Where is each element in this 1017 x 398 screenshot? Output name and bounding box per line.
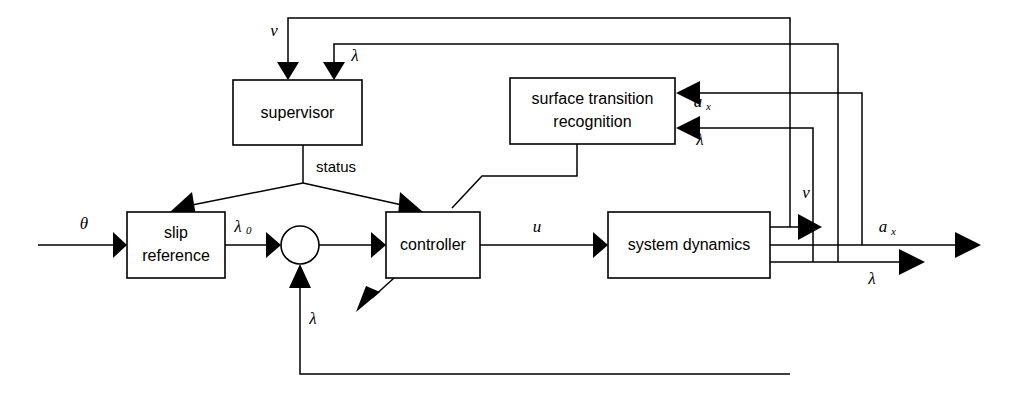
block-slip-rect[interactable] [127, 212, 225, 278]
arrowhead-slip-to-sum [266, 232, 281, 258]
label-lambda-to-surface: λ [695, 130, 703, 149]
wire-status-to-controller [303, 183, 402, 205]
label-ax-output-subscript: x [890, 225, 896, 237]
signal-label-layer: θ v λ status λ 0 u λ a x λ v a x λ [80, 21, 896, 328]
label-theta-input: θ [80, 214, 88, 233]
arrowhead-controller-to-sysdyn [593, 232, 608, 258]
block-controller-label: controller [400, 236, 466, 253]
wire-surface-to-controller [452, 144, 577, 208]
label-ax-to-surface-subscript: x [705, 100, 711, 112]
arrowhead-v-into-supervisor [277, 62, 299, 80]
label-lambda0-subscript: 0 [246, 224, 252, 236]
block-system-dynamics[interactable]: system dynamics [608, 212, 770, 278]
label-lambda-feedback: λ [308, 309, 316, 328]
arrowhead-theta-to-slip [113, 232, 127, 258]
summing-junction[interactable] [281, 226, 319, 264]
block-surface-label-line1: surface transition [532, 90, 654, 107]
block-controller[interactable]: controller [386, 212, 480, 278]
label-v-to-supervisor: v [270, 21, 278, 40]
label-ax-output-base: a [879, 217, 888, 236]
block-slip-label-line1: slip [164, 224, 188, 241]
block-surface-label-line2: recognition [553, 113, 631, 130]
block-surface-rect[interactable] [510, 78, 675, 144]
block-supervisor[interactable]: supervisor [233, 80, 362, 145]
label-lambda0: λ 0 [233, 217, 252, 236]
arrowhead-sum-to-controller [371, 232, 386, 258]
label-lambda-to-supervisor: λ [350, 46, 358, 65]
block-slip-label-line2: reference [142, 247, 210, 264]
block-system-dynamics-label: system dynamics [628, 236, 751, 253]
block-surface-transition-recognition[interactable]: surface transition recognition [510, 78, 675, 144]
wire-status-to-slip [192, 183, 303, 205]
label-lambda-output: λ [867, 269, 875, 288]
label-v-output: v [802, 183, 810, 202]
arrowhead-v-output [798, 214, 822, 240]
label-ax-output: a x [879, 217, 896, 237]
block-slip-reference[interactable]: slip reference [127, 212, 225, 278]
label-u-signal: u [533, 217, 542, 236]
label-ax-to-surface: a x [694, 92, 711, 112]
block-supervisor-label: supervisor [261, 104, 335, 121]
wire-layer [38, 18, 981, 374]
wire-lambda-bottom-feedback [300, 288, 790, 374]
arrowhead-ax-output [955, 232, 981, 258]
arrowhead-lambda-output [899, 249, 925, 275]
arrowhead-lambda-into-sum [289, 264, 311, 288]
label-status: status [316, 158, 356, 175]
label-ax-to-surface-base: a [694, 92, 703, 111]
arrowhead-lambda-into-supervisor [323, 62, 345, 80]
block-diagram-canvas: supervisor surface transition recognitio… [0, 0, 1017, 398]
arrowhead-controller-aux-output [356, 286, 380, 312]
label-lambda0-base: λ [233, 217, 241, 236]
diagram-svg: supervisor surface transition recognitio… [0, 0, 1017, 398]
